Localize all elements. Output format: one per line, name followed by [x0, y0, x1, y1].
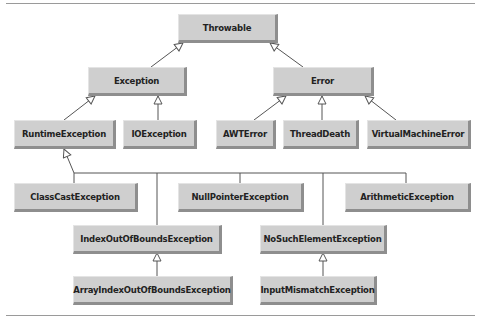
node-awt-error: AWTError	[216, 120, 276, 149]
node-throwable: Throwable	[178, 14, 278, 43]
node-thread-death: ThreadDeath	[283, 120, 359, 149]
node-arithmetic-exception: ArithmeticException	[345, 183, 471, 212]
node-index-out-of-bounds-exception: IndexOutOfBoundsException	[73, 225, 222, 254]
node-error: Error	[273, 67, 374, 96]
node-no-such-element-exception: NoSuchElementException	[260, 225, 387, 254]
node-exception: Exception	[88, 67, 187, 96]
node-input-mismatch-exception: InputMismatchException	[260, 276, 377, 305]
node-array-index-out-of-bounds-exception: ArrayIndexOutOfBoundsException	[73, 276, 233, 305]
node-virtual-machine-error: VirtualMachineError	[367, 120, 471, 149]
node-runtime-exception: RuntimeException	[14, 120, 116, 149]
node-null-pointer-exception: NullPointerException	[178, 183, 304, 212]
node-class-cast-exception: ClassCastException	[14, 183, 138, 212]
node-io-exception: IOException	[123, 120, 197, 149]
inheritance-arrows	[0, 0, 481, 320]
